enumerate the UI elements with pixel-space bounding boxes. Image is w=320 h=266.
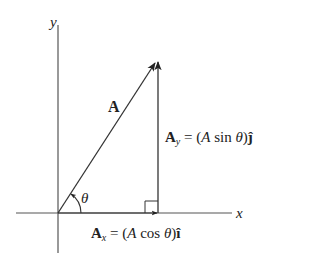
x-component-label: Ax = (A cos θ)î [91,226,180,243]
ax-name: A [91,225,102,241]
vector-a-label: A [108,99,120,115]
i-hat-unit-vector: î [176,225,180,241]
ay-name: A [165,129,176,145]
x-axis-label: x [236,206,243,221]
right-angle-marker [145,201,158,213]
ay-function: sin [210,129,235,145]
y-axis-label: y [50,15,57,30]
y-component-label: Ay = (A sin θ)ĵ [165,130,253,147]
ay-equals: = ( [180,129,201,145]
j-hat-unit-vector: ĵ [248,129,253,145]
ax-function: cos [136,225,164,241]
ay-angle: θ [235,129,242,145]
angle-arc [71,194,81,213]
angle-theta-label: θ [81,191,88,206]
ax-equals: = ( [106,225,127,241]
vector-a-arrow [58,63,155,213]
